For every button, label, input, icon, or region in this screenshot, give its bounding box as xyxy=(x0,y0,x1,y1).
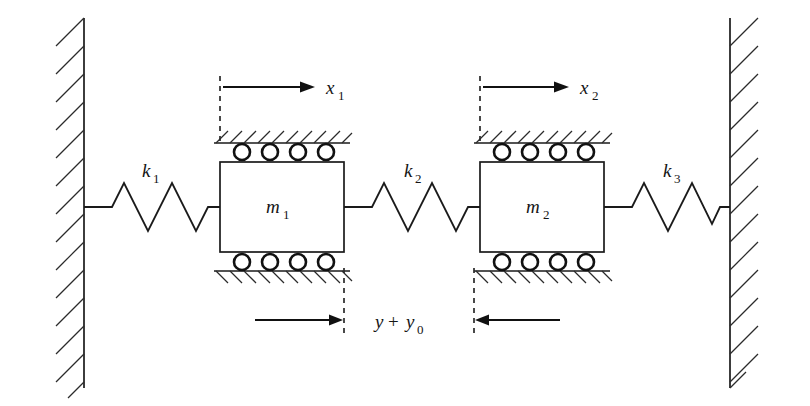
roller xyxy=(494,254,510,270)
fixed-wall-right xyxy=(730,18,758,388)
roller xyxy=(522,254,538,270)
label-m1-subscript: 1 xyxy=(283,207,290,222)
label-k1: k 1 xyxy=(142,160,160,186)
mass-m2-top-guide-hatching xyxy=(476,131,612,143)
label-m1-base: m xyxy=(266,196,280,217)
arrow-x2 xyxy=(483,82,569,93)
roller xyxy=(262,144,278,160)
mass-m2-body xyxy=(480,162,604,252)
mass-m2-bottom-rollers xyxy=(494,254,594,270)
fixed-wall-left xyxy=(56,18,84,398)
arrow-head-x2 xyxy=(554,82,569,93)
roller xyxy=(578,254,594,270)
label-x1: x 1 xyxy=(325,77,345,103)
label-gap-y0-subscript: 0 xyxy=(417,322,424,337)
right-wall-hatching xyxy=(730,18,758,388)
label-k3-subscript: 3 xyxy=(674,171,681,186)
roller xyxy=(318,254,334,270)
label-x1-base: x xyxy=(325,77,335,98)
label-k3: k 3 xyxy=(663,160,681,186)
label-gap-y0-base: y xyxy=(404,311,415,332)
roller xyxy=(494,144,510,160)
label-k1-subscript: 1 xyxy=(153,171,160,186)
label-x2-base: x xyxy=(579,77,589,98)
label-x2-subscript: 2 xyxy=(592,88,599,103)
roller xyxy=(234,144,250,160)
mass-m1-top-guide-hatching xyxy=(216,131,352,143)
label-k2-base: k xyxy=(404,160,413,181)
arrow-head-gap-left xyxy=(329,315,343,326)
roller xyxy=(578,144,594,160)
roller xyxy=(550,254,566,270)
label-x2: x 2 xyxy=(579,77,599,103)
mass-m1-top-rollers xyxy=(234,144,334,160)
label-gap: y + y 0 xyxy=(373,311,424,337)
mass-m1-bottom-guide-hatching xyxy=(216,271,352,283)
roller xyxy=(318,144,334,160)
roller xyxy=(550,144,566,160)
spring-k3 xyxy=(604,183,730,231)
mechanical-system-diagram: k 1 k 2 k 3 m 1 m 2 x 1 x 2 y + y 0 xyxy=(0,0,810,406)
mass-m2-bottom-guide-hatching xyxy=(476,271,612,283)
label-gap-y: y xyxy=(373,311,384,332)
arrow-gap-right xyxy=(475,315,560,326)
mass-m1-body xyxy=(220,162,344,252)
mass-m2-top-rollers xyxy=(494,144,594,160)
label-k2: k 2 xyxy=(404,160,422,186)
spring-k1-coil xyxy=(84,183,220,231)
arrow-x1 xyxy=(223,82,315,93)
roller xyxy=(290,144,306,160)
arrow-gap-left xyxy=(255,315,343,326)
roller xyxy=(234,254,250,270)
label-x1-subscript: 1 xyxy=(338,88,345,103)
spring-k2 xyxy=(344,183,480,231)
spring-k1 xyxy=(84,183,220,231)
arrow-head-x1 xyxy=(300,82,315,93)
mass-m1-bottom-rollers xyxy=(234,254,334,270)
spring-k3-coil xyxy=(604,183,730,231)
left-wall-hatching xyxy=(56,18,84,398)
label-m2-base: m xyxy=(526,196,540,217)
roller xyxy=(522,144,538,160)
label-m1: m 1 xyxy=(266,196,290,222)
arrow-head-gap-right xyxy=(475,315,489,326)
roller xyxy=(290,254,306,270)
spring-k2-coil xyxy=(344,183,480,231)
label-m2: m 2 xyxy=(526,196,550,222)
label-k2-subscript: 2 xyxy=(415,171,422,186)
roller xyxy=(262,254,278,270)
label-m2-subscript: 2 xyxy=(543,207,550,222)
label-gap-operator: + xyxy=(388,311,399,332)
diagram-canvas: k 1 k 2 k 3 m 1 m 2 x 1 x 2 y + y 0 xyxy=(0,0,810,406)
label-k1-base: k xyxy=(142,160,151,181)
label-k3-base: k xyxy=(663,160,672,181)
